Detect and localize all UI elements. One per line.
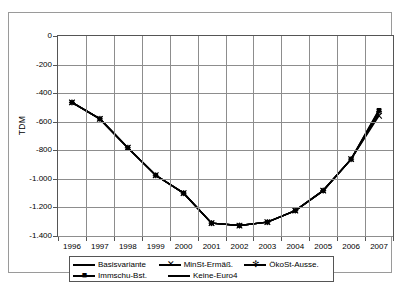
x-axis-tick-mark — [170, 237, 171, 241]
legend-label: MinSt-Ermäß. — [184, 260, 233, 269]
legend-marker-icon: ✻ — [244, 260, 266, 269]
x-axis-tick-mark — [253, 237, 254, 241]
x-axis-tick-mark — [393, 237, 394, 241]
legend-item[interactable]: ✕MinSt-Ermäß. — [159, 260, 245, 269]
chart-legend: Basisvariante✕MinSt-Ermäß.✻ÖkoSt-Ausse. … — [69, 256, 334, 282]
x-axis-tick-mark — [281, 237, 282, 241]
x-axis-tick-mark — [142, 237, 143, 241]
y-axis-tick-label: -1.000 — [12, 175, 52, 183]
gridline-vertical — [226, 36, 227, 236]
legend-marker-icon: ■ — [73, 271, 95, 280]
gridline-vertical — [365, 36, 366, 236]
legend-marker-icon: ✕ — [159, 260, 181, 269]
legend-label: Keine-Euro4 — [193, 271, 237, 280]
legend-row: ■Immschu-Bst.Keine-Euro4 — [73, 270, 330, 281]
gridline-vertical — [114, 36, 115, 236]
x-axis-tick-mark — [114, 237, 115, 241]
plot-area — [57, 35, 394, 237]
legend-item[interactable]: Basisvariante — [73, 260, 159, 269]
legend-item[interactable]: ■Immschu-Bst. — [73, 271, 168, 280]
y-axis-tick-label: -200 — [12, 61, 52, 69]
x-axis-tick-mark — [337, 237, 338, 241]
legend-item[interactable]: ✻ÖkoSt-Ausse. — [244, 260, 330, 269]
x-axis-tick-mark — [309, 237, 310, 241]
chart-frame: 0-200-400-600-800-1.000-1.200-1.40019961… — [8, 12, 392, 273]
data-point-marker — [377, 108, 382, 113]
gridline-horizontal — [58, 236, 393, 237]
y-axis-tick-label: -1.400 — [12, 232, 52, 240]
gridline-vertical — [142, 36, 143, 236]
gridline-vertical — [86, 36, 87, 236]
gridline-vertical — [170, 36, 171, 236]
legend-marker-icon — [73, 260, 95, 269]
x-axis-tick-mark — [86, 237, 87, 241]
y-axis-tick-label: 0 — [12, 32, 52, 40]
x-axis-tick-mark — [58, 237, 59, 241]
gridline-vertical — [198, 36, 199, 236]
gridline-vertical — [309, 36, 310, 236]
y-axis-tick-label: -800 — [12, 146, 52, 154]
legend-label: Basisvariante — [98, 260, 146, 269]
y-axis-title: TDM — [18, 106, 27, 146]
x-axis-tick-mark — [198, 237, 199, 241]
gridline-vertical — [253, 36, 254, 236]
y-axis-tick-label: -1.200 — [12, 203, 52, 211]
gridline-vertical — [281, 36, 282, 236]
x-axis-tick-mark — [226, 237, 227, 241]
legend-item[interactable]: Keine-Euro4 — [168, 271, 263, 280]
x-axis-tick-mark — [365, 237, 366, 241]
gridline-vertical — [337, 36, 338, 236]
legend-label: Immschu-Bst. — [98, 271, 147, 280]
legend-marker-icon — [168, 271, 190, 280]
legend-label: ÖkoSt-Ausse. — [269, 260, 318, 269]
legend-row: Basisvariante✕MinSt-Ermäß.✻ÖkoSt-Ausse. — [73, 259, 330, 270]
y-axis-tick-label: -400 — [12, 89, 52, 97]
x-axis-tick-label: 2007 — [362, 243, 396, 251]
